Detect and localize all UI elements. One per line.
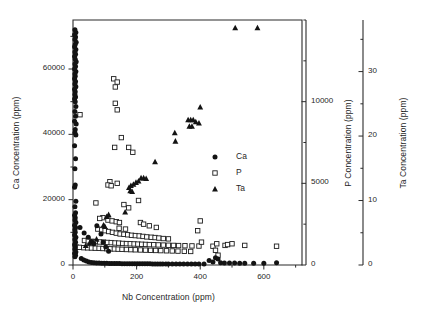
data-point-p <box>98 216 102 220</box>
data-point-ta <box>172 138 178 144</box>
ytick-label-p: 0 <box>311 259 315 268</box>
data-point-p <box>141 222 145 226</box>
data-point-ca <box>73 156 78 161</box>
data-point-p <box>213 248 217 252</box>
ytick-label-ta: 0 <box>368 259 372 268</box>
data-point-ca <box>74 121 79 126</box>
data-point-p <box>143 248 147 252</box>
data-point-p <box>154 225 158 229</box>
data-point-ca <box>103 245 108 250</box>
ytick-label-ta: 10 <box>368 195 377 204</box>
xtick-label: 0 <box>71 272 75 281</box>
data-point-ca <box>73 104 78 109</box>
x-axis-title: Nb Concentration (ppm) <box>122 292 215 302</box>
data-point-ca <box>73 132 78 137</box>
data-point-ca <box>72 109 77 114</box>
data-point-p <box>112 145 116 149</box>
data-point-p <box>176 249 180 253</box>
data-point-ca <box>86 235 91 240</box>
series-ta <box>83 25 261 248</box>
data-point-p <box>138 248 142 252</box>
data-point-ta <box>197 104 203 110</box>
data-point-ca <box>232 261 237 266</box>
data-point-p <box>115 181 119 185</box>
data-point-p <box>117 220 121 224</box>
data-point-p <box>215 242 219 246</box>
data-point-p <box>94 201 98 205</box>
data-point-p <box>147 242 151 246</box>
y-axis-title-p: P Concentration (ppm) <box>343 99 353 186</box>
data-point-ca <box>73 199 78 204</box>
data-point-p <box>156 243 160 247</box>
data-point-p <box>190 244 194 248</box>
data-point-p <box>126 206 130 210</box>
data-point-ta <box>152 159 158 165</box>
data-point-ta <box>232 25 238 31</box>
data-point-ca <box>72 166 77 171</box>
data-point-ca <box>106 249 111 254</box>
legend-label-ca: Ca <box>236 151 247 161</box>
data-point-p <box>230 242 234 246</box>
data-point-p <box>136 198 140 202</box>
data-point-p <box>171 243 175 247</box>
data-point-ca <box>242 261 247 266</box>
ytick-label-ta: 20 <box>368 130 377 139</box>
scatter-plot-figure: 0200004000060000050001000001020300200400… <box>0 0 426 318</box>
data-point-ca <box>72 143 77 148</box>
data-point-p <box>176 243 180 247</box>
data-point-p <box>170 249 174 253</box>
data-point-ca <box>101 240 106 245</box>
legend-label-p: P <box>236 167 242 177</box>
data-point-p <box>183 244 187 248</box>
data-point-ca <box>251 261 256 266</box>
data-point-p <box>78 113 82 117</box>
data-point-ca <box>77 225 82 230</box>
data-point-ca <box>82 230 87 235</box>
data-point-ca <box>94 223 99 228</box>
data-point-p <box>148 248 152 252</box>
data-point-p <box>153 248 157 252</box>
data-point-p <box>225 242 229 246</box>
data-point-p <box>77 245 81 249</box>
data-point-p <box>120 247 124 251</box>
data-point-p <box>195 229 199 233</box>
xtick-label: 200 <box>130 272 143 281</box>
data-point-p <box>182 249 186 253</box>
data-point-p <box>243 243 247 247</box>
data-point-p <box>145 235 149 239</box>
data-point-p <box>115 80 119 84</box>
data-point-ca <box>72 254 77 259</box>
data-point-p <box>198 219 202 223</box>
data-point-ca <box>98 231 103 236</box>
data-point-p <box>161 236 165 240</box>
data-point-p <box>152 243 156 247</box>
data-point-p <box>117 226 121 230</box>
data-point-p <box>129 247 133 251</box>
data-point-ca <box>202 262 207 267</box>
y-axis-title-ca: Ca Concentration (ppm) <box>11 96 21 189</box>
data-point-ca <box>91 241 96 246</box>
ytick-label-ca: 0 <box>61 259 65 268</box>
data-point-p <box>131 150 135 154</box>
data-point-p <box>157 236 161 240</box>
data-point-ca <box>227 261 232 266</box>
data-point-p <box>119 135 123 139</box>
data-point-ta <box>255 25 261 31</box>
legend-label-ta: Ta <box>236 183 245 193</box>
data-point-p <box>115 108 119 112</box>
data-point-ca <box>222 261 227 266</box>
data-point-p <box>199 240 203 244</box>
data-point-p <box>124 247 128 251</box>
ytick-label-p: 5000 <box>311 177 329 186</box>
data-point-ca <box>261 261 266 266</box>
data-point-p <box>123 227 127 231</box>
series-p <box>74 77 279 258</box>
data-point-ta <box>172 130 178 136</box>
data-point-ca <box>210 260 215 265</box>
data-point-p <box>122 202 126 206</box>
data-point-p <box>133 248 137 252</box>
y-axis-title-ta: Ta Concentration (ppm) <box>398 97 408 188</box>
ytick-label-ca: 40000 <box>43 128 65 137</box>
data-point-p <box>159 248 163 252</box>
xtick-label: 400 <box>194 272 207 281</box>
